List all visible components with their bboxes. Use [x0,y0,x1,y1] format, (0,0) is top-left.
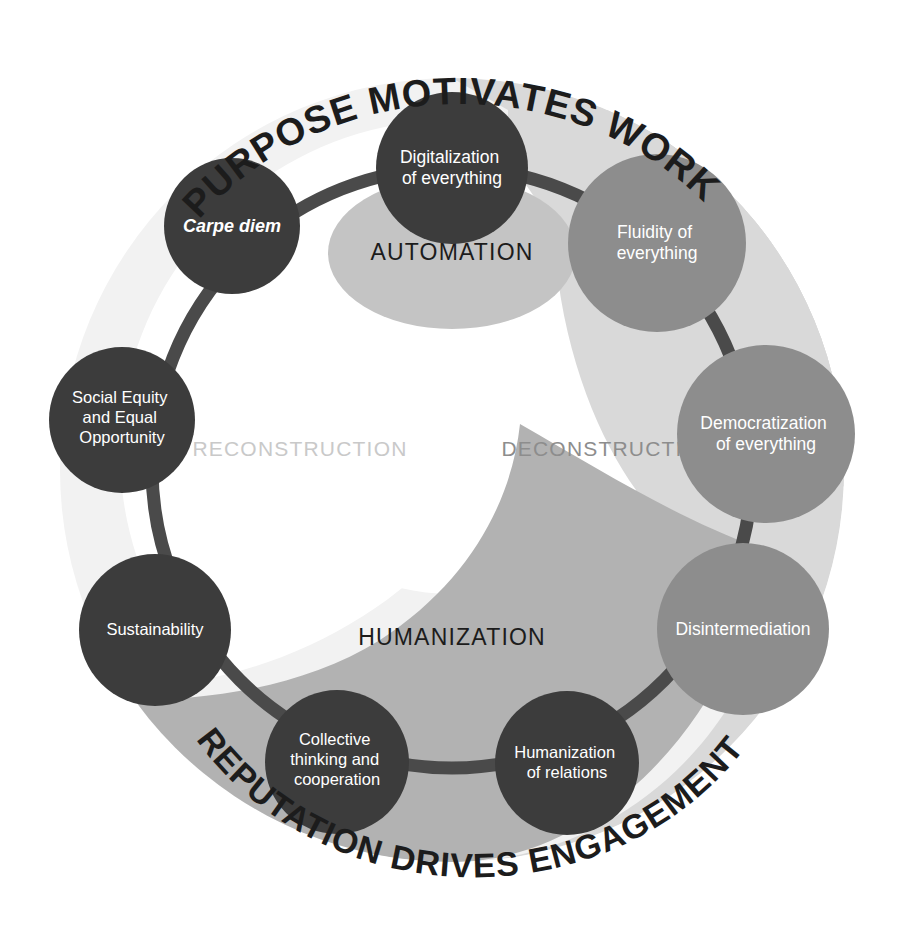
node-social-equity[interactable]: Social Equity and Equal Opportunity [49,347,195,493]
svg-text:Democratization of eve: Democratization of everything [700,413,831,454]
node-line: of relations [527,763,608,781]
node-line: Opportunity [79,428,165,446]
node-line: Disintermediation [675,619,810,639]
svg-text:Collective thinking an: Collective thinking and cooperation [290,730,384,788]
svg-text:Fluidity of everything: Fluidity of everything [617,222,698,263]
node-line: of everything [402,168,502,188]
svg-text:Social Equity and Equa: Social Equity and Equal Opportunity [72,388,172,446]
node-humanization-of-relations[interactable]: Humanization of relations [495,691,639,835]
svg-text:Sustainability: Sustainability [106,620,204,638]
node-line: Democratization [700,413,826,433]
node-line: Humanization [514,743,615,761]
node-line: thinking and [290,750,379,768]
zone-label-humanization: HUMANIZATION [358,624,546,650]
node-line: Social Equity [72,388,168,406]
zone-label-reconstruction: RECONSTRUCTION [192,437,407,460]
node-disintermediation[interactable]: Disintermediation [657,543,829,715]
node-line: Digitalization [400,147,499,167]
svg-text:Digitalization of ever: Digitalization of everything [400,147,504,188]
node-democratization[interactable]: Democratization of everything [677,345,855,523]
node-line: Collective [299,730,371,748]
svg-text:Disintermediation: Disintermediation [675,619,810,639]
svg-text:Carpe diem: Carpe diem [183,216,281,236]
node-line: everything [617,243,698,263]
node-line: and Equal [83,408,157,426]
diagram-canvas: AUTOMATION RECONSTRUCTION DECONSTRUCTION… [0,0,904,925]
node-line: cooperation [294,770,380,788]
node-line: Fluidity of [617,222,692,242]
node-sustainability[interactable]: Sustainability [79,554,231,706]
circular-diagram: AUTOMATION RECONSTRUCTION DECONSTRUCTION… [0,0,904,925]
node-line: of everything [716,434,816,454]
node-line: Carpe diem [183,216,281,236]
node-line: Sustainability [106,620,204,638]
